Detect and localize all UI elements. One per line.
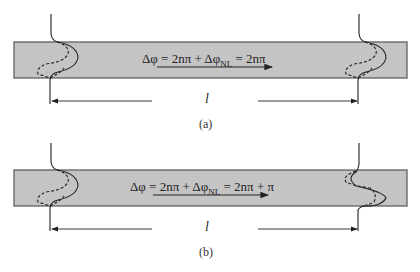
diagram-canvas [0, 0, 420, 272]
length-label-b: l [205, 219, 209, 235]
caption-a: (a) [199, 117, 212, 132]
phase-equation-b: Δφ = 2nπ + ΔφNL = 2nπ + π [130, 179, 274, 197]
equation-b-subscript: NL [208, 187, 220, 197]
equation-a-lhs: Δφ = 2nπ + Δφ [142, 51, 220, 66]
phase-equation-a: Δφ = 2nπ + ΔφNL = 2nπ [142, 51, 266, 69]
equation-b-rhs: = 2nπ + π [220, 179, 274, 194]
equation-b-lhs: Δφ = 2nπ + Δφ [130, 179, 208, 194]
caption-b: (b) [199, 245, 213, 260]
equation-a-rhs: = 2nπ [232, 51, 265, 66]
equation-a-subscript: NL [220, 59, 232, 69]
length-label-a: l [205, 91, 209, 107]
